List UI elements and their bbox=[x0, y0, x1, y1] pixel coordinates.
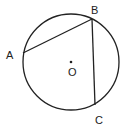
label-o: O bbox=[68, 66, 77, 78]
label-c: C bbox=[95, 114, 103, 126]
label-b: B bbox=[91, 4, 98, 16]
label-a: A bbox=[6, 49, 14, 61]
chord-ab bbox=[23, 19, 92, 53]
circle-diagram: A B C O bbox=[0, 0, 125, 129]
chord-bc bbox=[92, 19, 95, 105]
center-point bbox=[70, 61, 73, 64]
